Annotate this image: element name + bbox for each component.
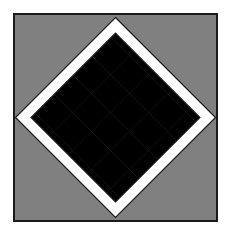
artwork-svg bbox=[0, 0, 228, 236]
artwork-canvas bbox=[0, 0, 228, 236]
